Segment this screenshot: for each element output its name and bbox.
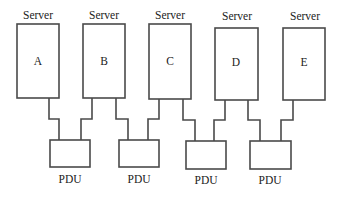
- pdu-2: PDU: [119, 140, 159, 185]
- wire-b-pdu2: [116, 98, 128, 140]
- wire-c-pdu2: [148, 99, 159, 140]
- server-id: C: [166, 55, 174, 67]
- wire-e-pdu4: [281, 100, 293, 141]
- server-caption: Server: [222, 10, 252, 22]
- server-id: D: [232, 56, 240, 68]
- server-caption: Server: [155, 9, 185, 21]
- server-b: Server B: [83, 9, 125, 98]
- pdu-1: PDU: [50, 140, 90, 185]
- wire-c-pdu3: [183, 99, 195, 141]
- wire-b-pdu1: [81, 98, 92, 140]
- server-caption: Server: [23, 9, 53, 21]
- server-id: B: [100, 55, 108, 67]
- pdu-label: PDU: [127, 173, 151, 185]
- server-pdu-diagram: Server A Server B Server C Server D Serv…: [0, 0, 341, 201]
- pdu-box: [119, 140, 159, 167]
- pdu-box: [186, 141, 226, 169]
- server-d: Server D: [215, 10, 258, 100]
- pdu-3: PDU: [186, 141, 226, 186]
- power-wires: [49, 98, 293, 141]
- wire-d-pdu3: [214, 100, 225, 141]
- wire-d-pdu4: [248, 100, 260, 141]
- pdu-box: [250, 141, 291, 169]
- server-id: A: [34, 55, 43, 67]
- server-a: Server A: [17, 9, 59, 98]
- pdu-box: [50, 140, 90, 167]
- pdu-label: PDU: [194, 174, 218, 186]
- server-e: Server E: [283, 10, 325, 100]
- pdu-label: PDU: [258, 174, 282, 186]
- server-caption: Server: [89, 9, 119, 21]
- server-id: E: [300, 56, 307, 68]
- pdu-label: PDU: [58, 173, 82, 185]
- wire-a-pdu1: [49, 98, 59, 140]
- server-caption: Server: [290, 10, 320, 22]
- server-c: Server C: [149, 9, 191, 99]
- pdu-4: PDU: [250, 141, 291, 186]
